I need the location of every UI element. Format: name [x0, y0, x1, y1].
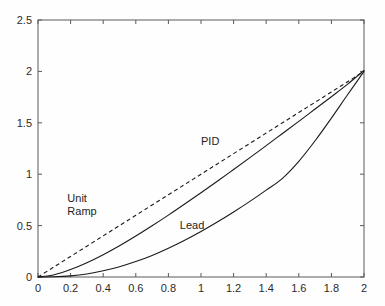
x-tick-label: 0.2	[63, 282, 78, 294]
x-tick-label: 0	[35, 282, 41, 294]
chart-page: 00.20.40.60.811.21.41.61.82 00.511.522.5…	[0, 0, 385, 306]
annotation-ramp: Ramp	[67, 205, 96, 217]
y-tick-label: 2.5	[17, 14, 32, 26]
x-tick-label: 1.4	[259, 282, 274, 294]
y-tick-label: 1.5	[17, 117, 32, 129]
y-tick-label: 2	[26, 65, 32, 77]
annotation-unit: Unit	[67, 192, 87, 204]
x-tick-label: 0.6	[128, 282, 143, 294]
y-tick-label: 0	[26, 271, 32, 283]
x-tick-label: 1.2	[226, 282, 241, 294]
x-tick-label: 2	[361, 282, 367, 294]
annotation-pid: PID	[201, 135, 219, 147]
x-tick-label: 1.6	[291, 282, 306, 294]
x-tick-label: 1	[198, 282, 204, 294]
x-tick-label: 0.8	[161, 282, 176, 294]
annotation-lead: Lead	[180, 219, 204, 231]
step-response-chart: 00.20.40.60.811.21.41.61.82 00.511.522.5…	[0, 0, 385, 306]
x-tick-label: 0.4	[96, 282, 111, 294]
chart-background	[0, 0, 385, 306]
y-tick-label: 0.5	[17, 220, 32, 232]
x-tick-label: 1.8	[324, 282, 339, 294]
y-tick-label: 1	[26, 168, 32, 180]
